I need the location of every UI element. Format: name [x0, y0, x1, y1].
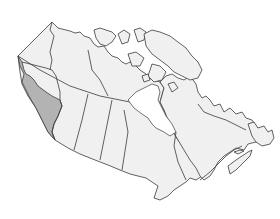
- canada-map: British Columbia: [0, 0, 280, 219]
- arctic-island-7: [142, 74, 150, 82]
- region-pei: [234, 150, 244, 154]
- region-nova-scotia: [228, 150, 252, 174]
- arctic-island-2: [118, 30, 130, 44]
- arctic-island-1: [94, 28, 116, 46]
